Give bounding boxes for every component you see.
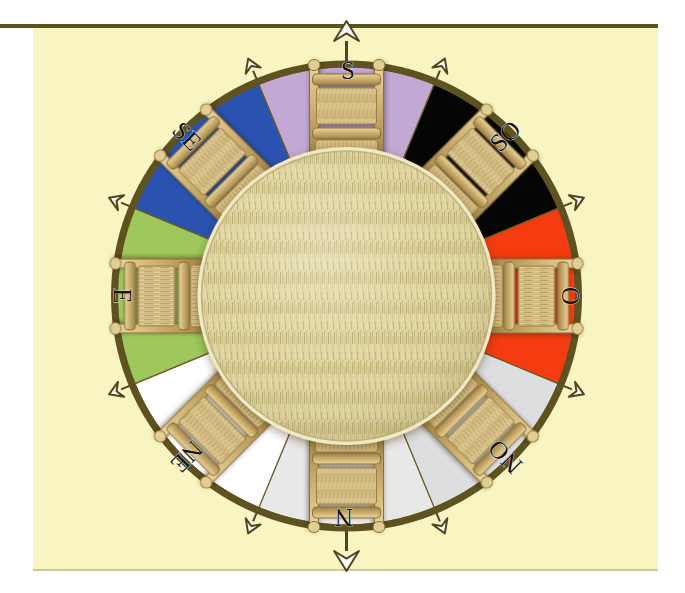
- compass-label-s: S: [341, 57, 355, 84]
- compass-rose-diagram: SSOONONNEESE: [0, 0, 685, 593]
- diagram-stage: SSOONONNEESE: [0, 0, 685, 593]
- compass-label-n: N: [335, 504, 353, 531]
- compass-label-o: O: [557, 287, 584, 305]
- screenshot-root: SSOONONNEESE: [0, 0, 685, 593]
- round-table: [198, 147, 496, 445]
- compass-label-e: E: [109, 288, 136, 303]
